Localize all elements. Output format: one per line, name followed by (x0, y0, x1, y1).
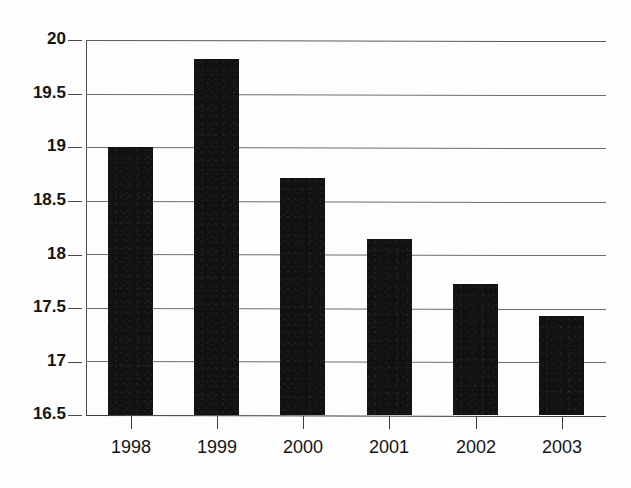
x-label-2000: 2000 (283, 437, 323, 458)
y-tick-label: 17 (47, 351, 66, 371)
gridline-19-5 (86, 94, 606, 96)
gridline-16-5-baseline (86, 415, 606, 417)
gridline-18 (86, 254, 606, 256)
bar-2002 (453, 284, 498, 415)
y-tick-mark (68, 255, 82, 256)
gridline-20 (86, 40, 606, 42)
x-label-1999: 1999 (197, 437, 237, 458)
bar-1999 (194, 59, 239, 415)
gridline-17-5 (86, 308, 606, 310)
bar-chart: 20 19.5 19 18.5 18 17.5 17 16.5 (0, 0, 631, 488)
bar-2003 (539, 316, 584, 415)
x-tick-1999 (217, 416, 218, 429)
y-tick-mark (68, 362, 82, 363)
x-tick-2001 (389, 416, 390, 429)
y-tick-label: 18.5 (33, 190, 66, 210)
x-tick-2002 (476, 416, 477, 429)
y-tick-label: 19.5 (33, 83, 66, 103)
y-tick-label: 18 (47, 244, 66, 264)
bar-2001 (367, 239, 412, 415)
y-tick-label: 20 (47, 29, 66, 49)
x-label-1998: 1998 (111, 437, 151, 458)
x-tick-2003 (562, 416, 563, 429)
y-tick-label: 16.5 (33, 404, 66, 424)
gridline-19 (86, 147, 606, 149)
bar-2000 (280, 178, 325, 415)
x-tick-2000 (303, 416, 304, 429)
x-tick-1998 (131, 416, 132, 429)
y-tick-mark (68, 147, 82, 148)
gridline-18-5 (86, 201, 606, 203)
plot-area: 20 19.5 19 18.5 18 17.5 17 16.5 (86, 40, 606, 415)
gridline-17 (86, 361, 606, 363)
y-tick-label: 17.5 (33, 297, 66, 317)
y-tick-mark (68, 201, 82, 202)
y-tick-mark (68, 94, 82, 95)
y-tick-label: 19 (47, 136, 66, 156)
y-tick-mark (68, 415, 82, 416)
x-label-2001: 2001 (369, 437, 409, 458)
y-tick-mark (68, 308, 82, 309)
x-label-2002: 2002 (456, 437, 496, 458)
x-label-2003: 2003 (542, 437, 582, 458)
y-tick-mark (68, 40, 82, 41)
bar-1998 (108, 147, 153, 415)
